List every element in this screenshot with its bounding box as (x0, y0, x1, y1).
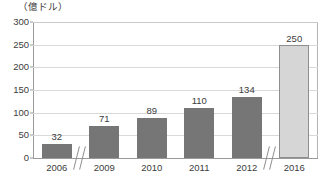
y-axis-tick-label: 250 (13, 40, 29, 50)
gridline-250 (33, 45, 318, 46)
gridline-300 (33, 22, 318, 23)
gridline-150 (33, 90, 318, 91)
bar-value-label: 32 (51, 131, 62, 142)
x-axis-label-2009: 2009 (94, 162, 115, 173)
y-tick-mark-200 (30, 67, 33, 68)
bar-2010[interactable]: 89 (137, 118, 167, 158)
gridline-50 (33, 135, 318, 136)
y-tick-mark-0 (30, 158, 33, 159)
bar-2012[interactable]: 134 (232, 97, 262, 158)
bar-value-label: 89 (146, 105, 157, 116)
bar-chart: （億ドル） 050100150200250300327189110134250 … (0, 0, 323, 183)
y-axis-tick-label: 0 (24, 153, 29, 163)
bar-value-label: 110 (192, 95, 207, 106)
axis-break-mark (73, 146, 89, 172)
plot-area: 050100150200250300327189110134250 (33, 22, 318, 158)
y-tick-mark-150 (30, 90, 33, 91)
y-axis-tick-label: 300 (13, 17, 29, 27)
bar-value-label: 134 (239, 84, 255, 95)
bar-2016[interactable]: 250 (279, 45, 309, 158)
y-axis-tick-label: 200 (13, 62, 29, 72)
x-axis-label-2010: 2010 (141, 162, 162, 173)
bar-2011[interactable]: 110 (184, 108, 214, 158)
gridline-200 (33, 67, 318, 68)
x-axis-label-2006: 2006 (46, 162, 67, 173)
y-axis-tick-label: 50 (18, 130, 29, 140)
x-axis-label-2012: 2012 (236, 162, 257, 173)
y-tick-mark-250 (30, 44, 33, 45)
y-axis-tick-label: 150 (13, 85, 29, 95)
x-axis-label-2011: 2011 (189, 162, 209, 173)
bar-2009[interactable]: 71 (89, 126, 119, 158)
axis-break-mark (263, 146, 279, 172)
y-axis-tick-label: 100 (13, 108, 29, 118)
bar-value-label: 250 (286, 33, 302, 44)
bar-2006[interactable]: 32 (42, 144, 72, 159)
y-tick-mark-50 (30, 135, 33, 136)
bar-value-label: 71 (99, 113, 110, 124)
y-tick-mark-100 (30, 112, 33, 113)
y-tick-mark-300 (30, 22, 33, 23)
x-axis-label-2016: 2016 (284, 162, 305, 173)
gridline-100 (33, 113, 318, 114)
y-axis-unit-label: （億ドル） (18, 1, 68, 13)
